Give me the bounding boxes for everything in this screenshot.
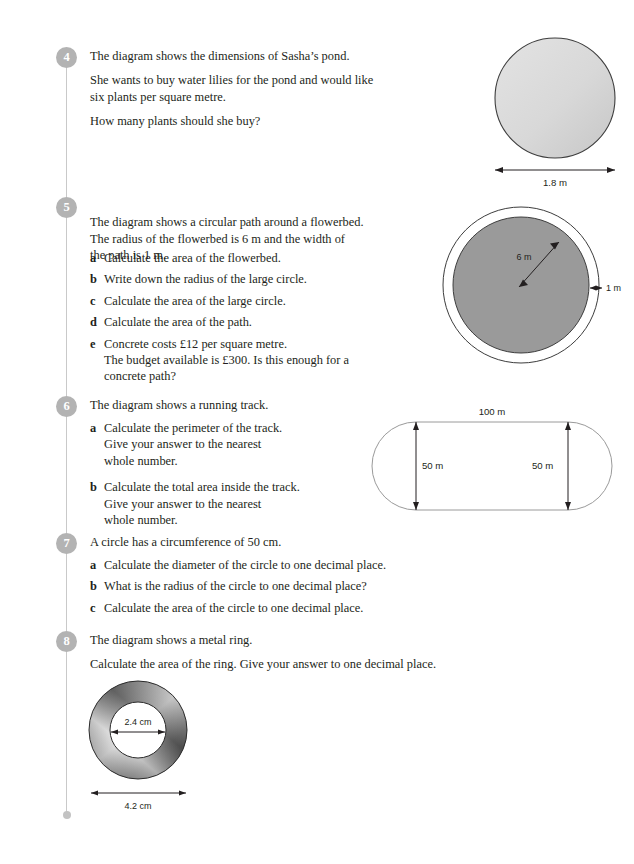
part-text: Calculate the area of the path.	[104, 315, 252, 329]
part-text: Calculate the area of the flowerbed.	[104, 251, 281, 265]
pond-circle	[495, 38, 615, 158]
part-label: c	[90, 293, 96, 309]
worksheet-page: 4 The diagram shows the dimensions of Sa…	[0, 0, 634, 864]
track-outline	[372, 422, 612, 510]
track-width-label-right: 50 m	[532, 460, 553, 471]
part-subtext: Give your answer to the nearest whole nu…	[104, 436, 380, 469]
question-spine-line	[66, 58, 67, 815]
part-subtext: Give your answer to the nearest whole nu…	[104, 496, 380, 529]
figure-flowerbed: 6 m 1 m	[440, 192, 634, 382]
part-text: Calculate the total area inside the trac…	[104, 480, 300, 494]
question-4-line-1: The diagram shows the dimensions of Sash…	[90, 48, 450, 64]
part-label: b	[90, 271, 97, 287]
ring-inner-diameter-label: 2.4 cm	[124, 717, 151, 727]
pond-dimension-arrow	[495, 167, 615, 173]
question-7-parts: a Calculate the diameter of the circle t…	[90, 557, 510, 616]
flowerbed-radius-label: 6 m	[516, 252, 531, 262]
figure-running-track: 100 m 50 m 50 m	[372, 398, 622, 513]
part-label: b	[90, 479, 97, 495]
part-label: d	[90, 314, 97, 330]
part-label: e	[90, 336, 96, 352]
question-4-line-2: She wants to buy water lilies for the po…	[90, 72, 450, 105]
question-7-text: A circle has a circumference of 50 cm.	[90, 534, 510, 550]
part-label: c	[90, 600, 96, 616]
pond-dimension-label: 1.8 m	[543, 177, 567, 188]
question-6-line-1: The diagram shows a running track.	[90, 397, 390, 413]
part-label: b	[90, 578, 97, 594]
question-5-part-a: a Calculate the area of the flowerbed.	[90, 250, 430, 266]
question-number-6: 6	[56, 396, 77, 417]
question-5-part-b: b Write down the radius of the large cir…	[90, 271, 430, 287]
part-subtext: The budget available is £300. Is this en…	[104, 352, 430, 385]
question-4-line-3: How many plants should she buy?	[90, 113, 450, 129]
part-text: Write down the radius of the large circl…	[104, 272, 307, 286]
question-7-part-c: c Calculate the area of the circle to on…	[90, 600, 510, 616]
question-number-4: 4	[56, 47, 77, 68]
part-label: a	[90, 557, 96, 573]
question-6-part-b: b Calculate the total area inside the tr…	[90, 479, 380, 528]
question-5-part-c: c Calculate the area of the large circle…	[90, 293, 430, 309]
part-text: Concrete costs £12 per square metre.	[104, 337, 287, 351]
part-text: Calculate the diameter of the circle to …	[104, 558, 386, 572]
track-width-label-left: 50 m	[422, 460, 443, 471]
path-width-label: 1 m	[606, 283, 621, 293]
question-8-text: The diagram shows a metal ring. Calculat…	[90, 632, 540, 673]
question-7-part-b: b What is the radius of the circle to on…	[90, 578, 510, 594]
question-6-part-a: a Calculate the perimeter of the track. …	[90, 420, 380, 469]
figure-metal-ring: 2.4 cm 4.2 cm	[85, 680, 245, 815]
question-number-8: 8	[56, 631, 77, 652]
part-text: Calculate the area of the circle to one …	[104, 601, 363, 615]
part-text: What is the radius of the circle to one …	[104, 579, 367, 593]
part-label: a	[90, 250, 96, 266]
question-number-7: 7	[56, 533, 77, 554]
question-5-parts: a Calculate the area of the flowerbed. b…	[90, 250, 430, 385]
question-6-text: The diagram shows a running track.	[90, 397, 390, 413]
ring-body	[85, 680, 245, 815]
question-7-line-1: A circle has a circumference of 50 cm.	[90, 534, 510, 550]
question-8-line-1: The diagram shows a metal ring.	[90, 632, 540, 648]
question-4-text: The diagram shows the dimensions of Sash…	[90, 48, 450, 130]
figure-pond: 1.8 m	[485, 36, 630, 191]
track-length-label: 100 m	[479, 406, 506, 417]
part-text: Calculate the perimeter of the track.	[104, 421, 282, 435]
question-8-line-2: Calculate the area of the ring. Give you…	[90, 656, 540, 672]
question-6-parts: a Calculate the perimeter of the track. …	[90, 420, 380, 528]
question-5-part-e: e Concrete costs £12 per square metre. T…	[90, 336, 430, 385]
part-text: Calculate the area of the large circle.	[104, 294, 286, 308]
part-label: a	[90, 420, 96, 436]
question-number-5: 5	[56, 197, 77, 218]
ring-outer-diameter-label: 4.2 cm	[124, 801, 151, 811]
question-7-part-a: a Calculate the diameter of the circle t…	[90, 557, 510, 573]
spine-end-dot	[63, 811, 71, 819]
question-5-part-d: d Calculate the area of the path.	[90, 314, 430, 330]
